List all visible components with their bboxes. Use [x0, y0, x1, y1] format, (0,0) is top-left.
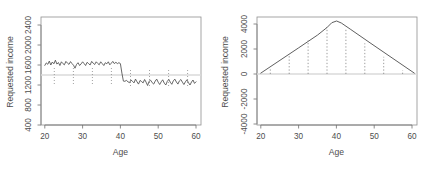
right-data-line — [261, 21, 415, 73]
left-x-tick-20: 20 — [40, 132, 50, 141]
right-x-axis-title: Age — [329, 147, 345, 157]
right-x-tick-30: 30 — [294, 132, 304, 141]
right-y-tick-neg4000: -4000 — [240, 113, 249, 134]
right-x-tick-20: 20 — [256, 132, 266, 141]
left-data-line — [45, 60, 196, 85]
left-y-tick-400: 400 — [24, 118, 33, 132]
right-panel-canvas: Requested income -4000 -2000 0 2000 4000 — [215, 0, 430, 170]
left-y-axis — [38, 25, 42, 125]
left-vline-group — [54, 68, 187, 88]
left-y-tick-800: 800 — [24, 98, 33, 112]
figure-two-panel-plot: Requested income 400 800 1200 1600 2000 … — [0, 0, 431, 170]
right-plot-frame — [257, 17, 417, 125]
right-y-tick-neg2000: -2000 — [240, 88, 249, 109]
right-y-axis — [254, 24, 258, 124]
right-x-tick-40: 40 — [332, 132, 342, 141]
left-x-axis — [45, 125, 196, 129]
left-panel: Requested income 400 800 1200 1600 2000 … — [0, 0, 215, 170]
right-x-tick-50: 50 — [370, 132, 380, 141]
right-y-tick-0: 0 — [240, 71, 249, 76]
left-x-tick-60: 60 — [191, 132, 201, 141]
left-plot-frame — [41, 17, 201, 125]
left-y-axis-title: Requested income — [5, 36, 15, 108]
left-panel-canvas: Requested income 400 800 1200 1600 2000 … — [0, 0, 215, 170]
left-y-tick-2400: 2400 — [24, 15, 33, 34]
right-y-tick-2000: 2000 — [240, 39, 249, 58]
left-y-tick-1200: 1200 — [24, 75, 33, 94]
left-x-tick-40: 40 — [116, 132, 126, 141]
right-x-axis — [261, 125, 412, 129]
left-x-tick-50: 50 — [154, 132, 164, 141]
left-y-tick-1600: 1600 — [24, 55, 33, 74]
right-x-tick-60: 60 — [407, 132, 417, 141]
right-vline-group — [270, 27, 402, 74]
left-x-tick-30: 30 — [78, 132, 88, 141]
left-x-axis-title: Age — [113, 147, 129, 157]
right-panel: Requested income -4000 -2000 0 2000 4000 — [215, 0, 430, 170]
right-y-tick-4000: 4000 — [240, 14, 249, 33]
right-y-axis-title: Requested income — [220, 36, 230, 108]
left-y-tick-2000: 2000 — [24, 35, 33, 54]
